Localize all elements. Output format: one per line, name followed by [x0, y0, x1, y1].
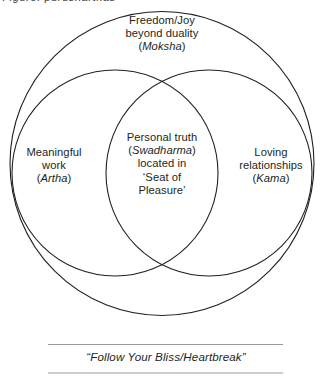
diagram-caption: “Follow Your Bliss/Heartbreak” [48, 350, 284, 363]
label-moksha-paren-close: ) [182, 40, 186, 52]
label-swadharma: Personal truth (Swadharma) located in ‘S… [110, 131, 214, 197]
label-artha-line1: Meaningful [26, 146, 81, 158]
label-artha-paren-close: ) [68, 172, 72, 184]
label-swadharma-line3: located in [138, 157, 186, 169]
venn-diagram: Figure: purusharthas Freedom/Joy beyond … [0, 0, 324, 379]
label-kama-line1: Loving [254, 146, 287, 158]
label-kama-line2: relationships [239, 159, 302, 171]
label-artha: Meaningful work (Artha) [6, 146, 102, 186]
label-moksha: Freedom/Joy beyond duality (Moksha) [96, 14, 228, 54]
label-kama-paren-close: ) [286, 172, 290, 184]
label-swadharma-line5: Pleasure’ [138, 184, 185, 196]
label-swadharma-paren-close: ) [192, 144, 196, 156]
label-swadharma-line1: Personal truth [127, 131, 197, 143]
label-moksha-line2: beyond duality [126, 27, 199, 39]
label-kama-sanskrit: Kama [256, 172, 285, 184]
label-swadharma-sanskrit: Swadharma [132, 144, 192, 156]
label-swadharma-line4: ‘Seat of [143, 171, 181, 183]
label-moksha-line1: Freedom/Joy [129, 14, 195, 26]
label-artha-sanskrit: Artha [41, 172, 68, 184]
label-kama: Loving relationships (Kama) [222, 146, 320, 186]
label-moksha-sanskrit: Moksha [142, 40, 181, 52]
label-artha-line2: work [42, 159, 66, 171]
